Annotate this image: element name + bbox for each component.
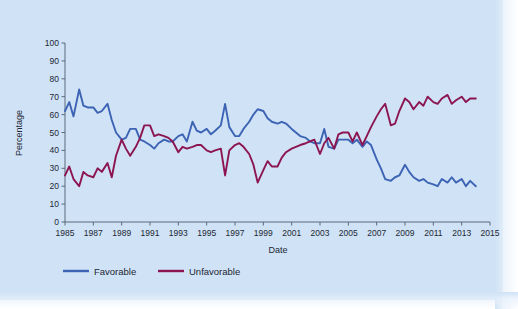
x-axis-tick-label: 2001 bbox=[282, 228, 301, 238]
line-chart: 0102030405060708090100 19851987198919911… bbox=[0, 0, 518, 309]
x-axis-tick-label: 1999 bbox=[254, 228, 273, 238]
y-axis-title: Percentage bbox=[14, 110, 24, 156]
x-axis: 1985198719891991199319951997199920012003… bbox=[56, 222, 500, 238]
y-axis-tick-label: 90 bbox=[50, 56, 60, 66]
y-axis-tick-label: 80 bbox=[50, 74, 60, 84]
x-axis-tick-label: 1995 bbox=[197, 228, 216, 238]
x-axis-tick-label: 2009 bbox=[396, 228, 415, 238]
x-axis-tick-label: 1993 bbox=[169, 228, 188, 238]
x-axis-tick-label: 1991 bbox=[141, 228, 160, 238]
legend-label-unfavorable[interactable]: Unfavorable bbox=[189, 266, 240, 277]
y-axis-tick-label: 50 bbox=[50, 128, 60, 138]
y-axis-tick-label: 20 bbox=[50, 181, 60, 191]
x-axis-tick-label: 2003 bbox=[311, 228, 330, 238]
x-axis-tick-label: 1997 bbox=[226, 228, 245, 238]
x-axis-tick-label: 2011 bbox=[424, 228, 443, 238]
x-axis-tick-label: 2015 bbox=[481, 228, 500, 238]
y-axis-tick-label: 40 bbox=[50, 145, 60, 155]
chart-figure: 0102030405060708090100 19851987198919911… bbox=[0, 0, 518, 309]
y-axis-tick-label: 30 bbox=[50, 163, 60, 173]
y-axis-tick-label: 0 bbox=[54, 217, 59, 227]
x-axis-tick-label: 2007 bbox=[367, 228, 386, 238]
series-line-favorable bbox=[65, 90, 476, 187]
y-axis-tick-label: 100 bbox=[45, 38, 59, 48]
y-axis-tick-label: 10 bbox=[50, 199, 60, 209]
x-axis-tick-label: 1985 bbox=[56, 228, 75, 238]
y-axis-tick-label: 60 bbox=[50, 110, 60, 120]
x-axis-title: Date bbox=[268, 245, 287, 255]
x-axis-tick-label: 1989 bbox=[112, 228, 131, 238]
series-line-unfavorable bbox=[65, 95, 476, 186]
chart-legend[interactable]: FavorableUnfavorable bbox=[63, 266, 240, 277]
x-axis-tick-label: 2005 bbox=[339, 228, 358, 238]
x-axis-tick-label: 2013 bbox=[452, 228, 471, 238]
series-lines bbox=[65, 90, 476, 187]
legend-label-favorable[interactable]: Favorable bbox=[94, 266, 136, 277]
y-axis: 0102030405060708090100 bbox=[45, 38, 65, 227]
y-axis-tick-label: 70 bbox=[50, 92, 60, 102]
x-axis-tick-label: 1987 bbox=[84, 228, 103, 238]
